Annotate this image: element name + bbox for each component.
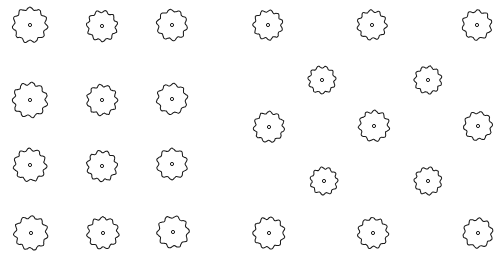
tree-trunk-dot-icon bbox=[267, 125, 270, 128]
tree-trunk-dot-icon bbox=[426, 78, 429, 81]
tree-symbol bbox=[310, 167, 338, 195]
tree-symbol bbox=[14, 216, 48, 250]
tree-symbol bbox=[156, 83, 187, 114]
site-plan-canvas bbox=[0, 0, 502, 263]
tree-symbol bbox=[86, 150, 117, 181]
tree-symbol bbox=[253, 111, 284, 142]
tree-trunk-dot-icon bbox=[370, 23, 373, 26]
tree-trunk-dot-icon bbox=[29, 231, 32, 234]
tree-trunk-dot-icon bbox=[100, 164, 103, 167]
tree-symbol bbox=[157, 216, 190, 248]
tree-trunk-dot-icon bbox=[266, 23, 269, 26]
tree-trunk-dot-icon bbox=[170, 97, 173, 100]
tree-symbol bbox=[253, 10, 283, 40]
tree-symbol bbox=[12, 7, 47, 42]
tree-symbol bbox=[157, 148, 187, 180]
tree-trunk-dot-icon bbox=[476, 231, 479, 234]
tree-symbol bbox=[156, 9, 187, 41]
tree-trunk-dot-icon bbox=[100, 98, 103, 101]
tree-trunk-dot-icon bbox=[100, 24, 103, 27]
tree-symbol bbox=[87, 84, 118, 116]
tree-trunk-dot-icon bbox=[372, 124, 375, 127]
tree-trunk-dot-icon bbox=[171, 230, 174, 233]
tree-symbol bbox=[358, 110, 389, 141]
tree-trunk-dot-icon bbox=[267, 231, 270, 234]
tree-symbol bbox=[414, 167, 442, 195]
tree-symbol bbox=[13, 148, 47, 181]
tree-trunk-dot-icon bbox=[28, 163, 31, 166]
tree-trunk-dot-icon bbox=[322, 179, 325, 182]
tree-planting-plan-drawing bbox=[0, 0, 502, 263]
tree-symbol-layer bbox=[12, 7, 493, 250]
tree-trunk-dot-icon bbox=[476, 124, 479, 127]
tree-symbol bbox=[87, 217, 119, 249]
tree-trunk-dot-icon bbox=[28, 98, 31, 101]
tree-symbol bbox=[308, 66, 336, 94]
tree-trunk-dot-icon bbox=[28, 23, 31, 26]
tree-trunk-dot-icon bbox=[320, 78, 323, 81]
tree-symbol bbox=[358, 218, 389, 249]
tree-symbol bbox=[464, 112, 493, 141]
tree-symbol bbox=[357, 10, 387, 40]
tree-trunk-dot-icon bbox=[170, 162, 173, 165]
tree-trunk-dot-icon bbox=[101, 231, 104, 234]
tree-trunk-dot-icon bbox=[371, 231, 374, 234]
tree-trunk-dot-icon bbox=[170, 23, 173, 26]
tree-symbol bbox=[462, 10, 491, 40]
tree-trunk-dot-icon bbox=[426, 179, 429, 182]
tree-symbol bbox=[463, 218, 493, 248]
tree-symbol bbox=[12, 82, 47, 117]
tree-trunk-dot-icon bbox=[475, 23, 478, 26]
tree-symbol bbox=[414, 66, 442, 94]
tree-symbol bbox=[253, 217, 285, 249]
tree-symbol bbox=[86, 11, 117, 42]
